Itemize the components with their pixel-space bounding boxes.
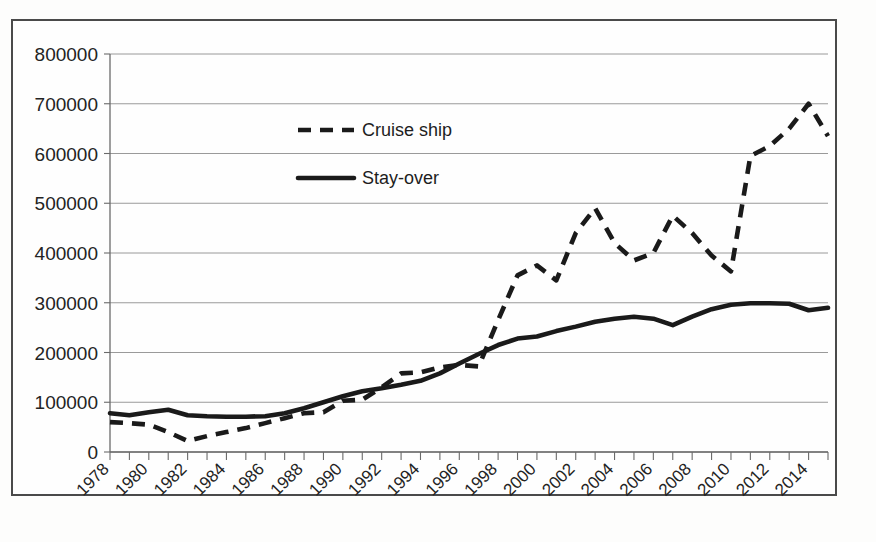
chart-legend: Cruise shipStay-over <box>298 120 452 188</box>
y-axis <box>104 54 110 452</box>
x-tick-label: 2006 <box>616 459 656 499</box>
x-tick-label: 2010 <box>694 459 734 499</box>
x-axis <box>110 452 828 460</box>
x-tick-label: 1996 <box>422 459 462 499</box>
legend-label-stay-over: Stay-over <box>362 168 439 188</box>
x-tick-label: 2002 <box>538 459 578 499</box>
gridlines-group <box>110 54 828 452</box>
series-line-stay-over <box>110 303 828 416</box>
x-tick-label: 1984 <box>189 459 229 499</box>
y-tick-label: 100000 <box>35 392 98 413</box>
y-tick-label: 200000 <box>35 343 98 364</box>
y-tick-label: 600000 <box>35 144 98 165</box>
line-chart: 0100000200000300000400000500000600000700… <box>0 0 876 542</box>
y-tick-label: 800000 <box>35 44 98 65</box>
x-tick-label: 1980 <box>111 459 151 499</box>
chart-svg: 0100000200000300000400000500000600000700… <box>0 0 876 542</box>
x-tick-label: 1994 <box>383 459 423 499</box>
y-tick-label: 300000 <box>35 293 98 314</box>
y-tick-label: 500000 <box>35 193 98 214</box>
y-tick-labels-group: 0100000200000300000400000500000600000700… <box>35 44 98 463</box>
x-tick-label: 1982 <box>150 459 190 499</box>
legend-label-cruise-ship: Cruise ship <box>362 120 452 140</box>
series-line-cruise-ship <box>110 104 828 441</box>
x-tick-label: 1992 <box>344 459 384 499</box>
x-tick-label: 2004 <box>577 459 617 499</box>
x-tick-label: 1990 <box>306 459 346 499</box>
data-series-group <box>110 104 828 441</box>
x-tick-label: 1998 <box>461 459 501 499</box>
y-tick-label: 0 <box>87 442 98 463</box>
x-tick-label: 1986 <box>228 459 268 499</box>
x-tick-label: 2012 <box>732 459 772 499</box>
x-tick-label: 2000 <box>500 459 540 499</box>
x-tick-label: 2008 <box>655 459 695 499</box>
x-tick-label: 2014 <box>771 459 811 499</box>
y-tick-label: 400000 <box>35 243 98 264</box>
x-tick-labels-group: 1978198019821984198619881990199219941996… <box>73 459 812 499</box>
x-tick-label: 1988 <box>267 459 307 499</box>
x-tick-label: 1978 <box>73 459 113 499</box>
y-tick-label: 700000 <box>35 94 98 115</box>
